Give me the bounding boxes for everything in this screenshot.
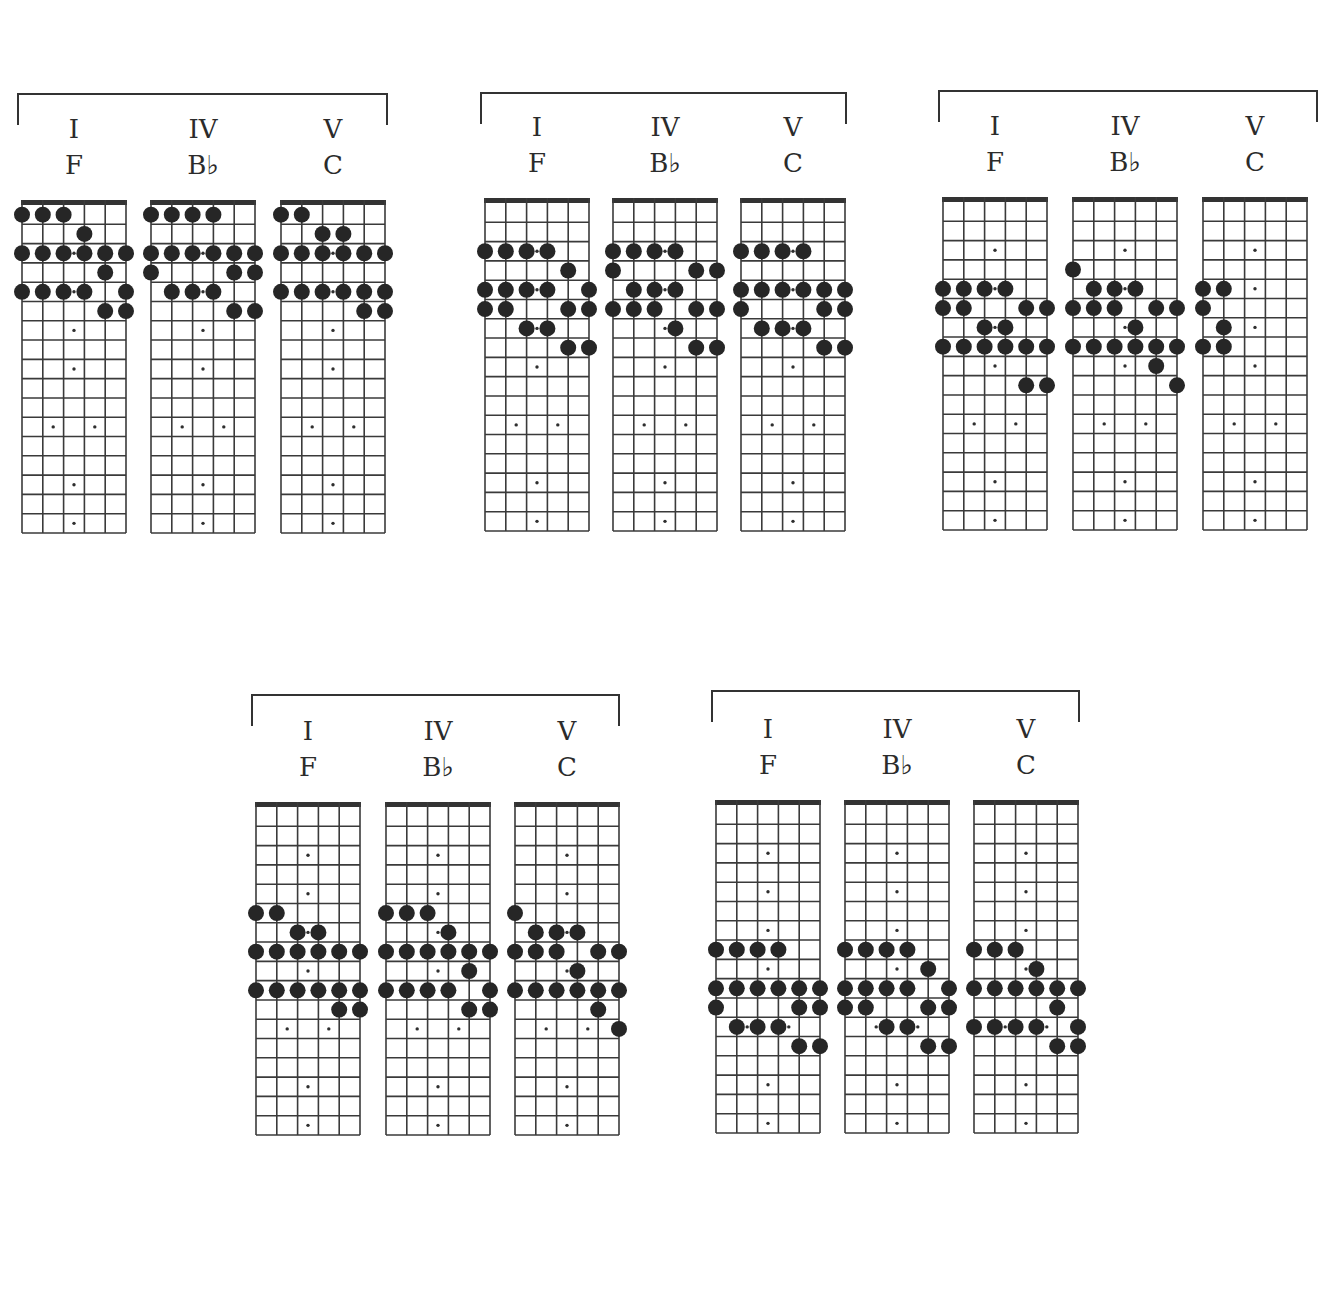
note-dot-icon (143, 207, 159, 223)
note-dot-icon (1039, 339, 1055, 355)
note-dot-icon (1195, 300, 1211, 316)
note-dot-icon (626, 282, 642, 298)
note-dot-icon (1065, 262, 1081, 278)
note-dot-icon (310, 944, 326, 960)
nut-bar (844, 800, 950, 805)
note-dot-icon (1065, 300, 1081, 316)
inlay-dot-icon (791, 481, 794, 484)
note-dot-icon (507, 982, 523, 998)
note-dot-icon (185, 207, 201, 223)
inlay-dot-icon (1024, 929, 1027, 932)
inlay-dot-icon (766, 890, 769, 893)
inlay-dot-icon (306, 931, 309, 934)
note-dot-icon (205, 245, 221, 261)
inlay-dot-icon (1123, 480, 1126, 483)
note-dot-icon (143, 265, 159, 281)
note-dot-icon (118, 303, 134, 319)
note-dot-icon (76, 226, 92, 242)
note-dot-icon (775, 282, 791, 298)
inlay-dot-icon (1024, 1083, 1027, 1086)
inlay-dot-icon (895, 1122, 898, 1125)
note-dot-icon (569, 982, 585, 998)
note-dot-icon (226, 245, 242, 261)
note-dot-icon (956, 300, 972, 316)
note-dot-icon (1169, 300, 1185, 316)
note-dot-icon (812, 1000, 828, 1016)
nut-bar (280, 200, 386, 205)
inlay-dot-icon (875, 1025, 878, 1028)
note-dot-icon (248, 905, 264, 921)
chord-numeral: IV (1073, 111, 1177, 141)
note-dot-icon (331, 1002, 347, 1018)
note-dot-icon (1195, 281, 1211, 297)
note-dot-icon (1169, 377, 1185, 393)
note-dot-icon (1195, 339, 1211, 355)
note-dot-icon (1148, 358, 1164, 374)
fretboard-diagram (974, 800, 1078, 1133)
inlay-dot-icon (1103, 422, 1106, 425)
note-dot-icon (708, 1000, 724, 1016)
note-dot-icon (812, 1038, 828, 1054)
inlay-dot-icon (72, 367, 75, 370)
fretboard-diagram (1203, 197, 1307, 530)
note-dot-icon (1127, 319, 1143, 335)
fretboard-diagram (485, 198, 589, 531)
inlay-dot-icon (201, 252, 204, 255)
note-dot-icon (440, 924, 456, 940)
note-dot-icon (315, 284, 331, 300)
fretboard-diagram (256, 802, 360, 1135)
note-dot-icon (164, 284, 180, 300)
inlay-dot-icon (993, 519, 996, 522)
chord-name: F (716, 750, 820, 780)
note-dot-icon (795, 243, 811, 259)
note-dot-icon (997, 339, 1013, 355)
inlay-dot-icon (993, 364, 996, 367)
chord-name: F (943, 147, 1047, 177)
note-dot-icon (1127, 339, 1143, 355)
note-dot-icon (226, 303, 242, 319)
note-dot-icon (956, 339, 972, 355)
note-dot-icon (482, 1002, 498, 1018)
note-dot-icon (461, 1002, 477, 1018)
note-dot-icon (1216, 281, 1232, 297)
note-dot-icon (941, 1000, 957, 1016)
inlay-dot-icon (331, 483, 334, 486)
nut-bar (21, 200, 127, 205)
note-dot-icon (626, 243, 642, 259)
note-dot-icon (667, 320, 683, 336)
note-dot-icon (858, 942, 874, 958)
inlay-dot-icon (535, 288, 538, 291)
note-dot-icon (795, 320, 811, 336)
inlay-dot-icon (791, 327, 794, 330)
fretboard-diagram (151, 200, 255, 533)
note-dot-icon (226, 265, 242, 281)
inlay-dot-icon (895, 852, 898, 855)
note-dot-icon (997, 319, 1013, 335)
note-dot-icon (269, 982, 285, 998)
note-dot-icon (290, 944, 306, 960)
inlay-dot-icon (895, 1083, 898, 1086)
note-dot-icon (997, 281, 1013, 297)
note-dot-icon (528, 982, 544, 998)
chord-numeral: V (1203, 111, 1307, 141)
note-dot-icon (791, 1038, 807, 1054)
note-dot-icon (1049, 1000, 1065, 1016)
chord-numeral: IV (386, 716, 490, 746)
nut-bar (740, 198, 846, 203)
note-dot-icon (879, 1019, 895, 1035)
inlay-dot-icon (306, 1124, 309, 1127)
note-dot-icon (709, 340, 725, 356)
note-dot-icon (605, 263, 621, 279)
inlay-dot-icon (1144, 422, 1147, 425)
note-dot-icon (611, 982, 627, 998)
inlay-dot-icon (457, 1027, 460, 1030)
inlay-dot-icon (812, 423, 815, 426)
inlay-dot-icon (1024, 890, 1027, 893)
note-dot-icon (1049, 1038, 1065, 1054)
inlay-dot-icon (787, 1025, 790, 1028)
chord-numeral: I (256, 716, 360, 746)
note-dot-icon (477, 301, 493, 317)
note-dot-icon (770, 942, 786, 958)
note-dot-icon (560, 263, 576, 279)
inlay-dot-icon (331, 252, 334, 255)
